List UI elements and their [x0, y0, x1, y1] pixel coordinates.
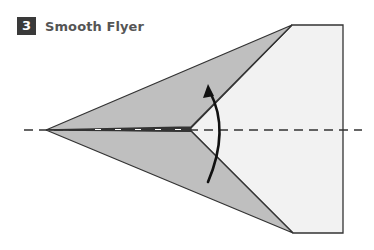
airplane-fold-diagram — [0, 0, 374, 250]
paper-body — [191, 25, 343, 233]
